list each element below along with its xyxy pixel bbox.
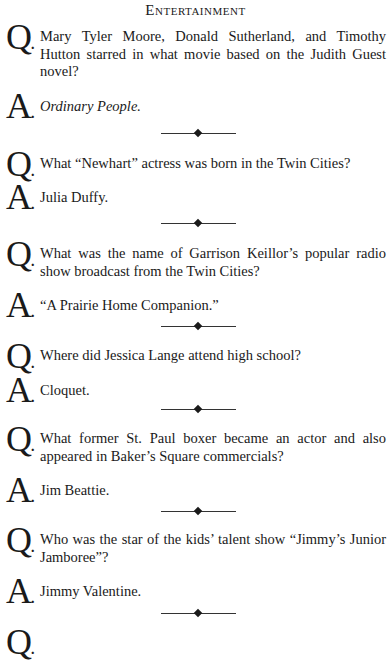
question-text: What “Newhart” actress was born in the T… <box>40 152 386 173</box>
divider-ornament <box>161 129 236 137</box>
question-row: Q. <box>6 630 386 633</box>
answer-row: A. “A Prairie Home Companion.” <box>6 293 386 315</box>
answer-marker: A. <box>6 88 35 132</box>
answer-marker: A. <box>6 573 35 617</box>
question-marker: Q. <box>6 19 35 63</box>
qa-item: Q. What former St. Paul boxer became an … <box>6 427 386 500</box>
diamond-icon <box>194 609 202 617</box>
question-marker: Q. <box>6 522 35 566</box>
question-marker: Q. <box>6 421 35 465</box>
question-text: Who was the star of the kids’ talent sho… <box>40 528 386 566</box>
divider-ornament <box>161 507 236 515</box>
question-text <box>40 630 386 633</box>
question-row: Q. Mary Tyler Moore, Donald Sutherland, … <box>6 25 386 81</box>
question-row: Q. Who was the star of the kids’ talent … <box>6 528 386 566</box>
answer-marker: A. <box>6 372 35 416</box>
divider-ornament <box>161 405 236 413</box>
diamond-icon <box>194 219 202 227</box>
question-row: Q. What former St. Paul boxer became an … <box>6 427 386 465</box>
divider-ornament <box>161 609 236 617</box>
answer-row: A. Julia Duffy. <box>6 185 386 207</box>
section-title: Entertainment <box>0 2 391 19</box>
diamond-icon <box>194 405 202 413</box>
answer-marker: A. <box>6 472 35 516</box>
diamond-icon <box>194 129 202 137</box>
answer-text: Julia Duffy. <box>40 185 386 207</box>
qa-item: Q. What was the name of Garrison Keillor… <box>6 242 386 315</box>
answer-row: A. Cloquet. <box>6 378 386 400</box>
question-text: Where did Jessica Lange attend high scho… <box>40 344 386 365</box>
qa-item: Q. What “Newhart” actress was born in th… <box>6 152 386 206</box>
question-text: Mary Tyler Moore, Donald Sutherland, and… <box>40 25 386 81</box>
question-row: Q. What was the name of Garrison Keillor… <box>6 242 386 280</box>
answer-row: A. Jim Beattie. <box>6 478 386 500</box>
question-text: What was the name of Garrison Keillor’s … <box>40 242 386 280</box>
question-marker: Q. <box>6 624 35 664</box>
answer-marker: A. <box>6 287 35 331</box>
qa-item: Q. Mary Tyler Moore, Donald Sutherland, … <box>6 25 386 115</box>
question-text: What former St. Paul boxer became an act… <box>40 427 386 465</box>
qa-item: Q. Who was the star of the kids’ talent … <box>6 528 386 601</box>
divider-ornament <box>161 322 236 330</box>
question-row: Q. Where did Jessica Lange attend high s… <box>6 344 386 365</box>
answer-text: Ordinary People. <box>40 94 386 116</box>
answer-text: Jimmy Valentine. <box>40 579 386 601</box>
diamond-icon <box>194 322 202 330</box>
diamond-icon <box>194 507 202 515</box>
qa-item: Q. <box>6 630 386 633</box>
answer-text: “A Prairie Home Companion.” <box>40 293 386 315</box>
answer-text: Cloquet. <box>40 378 386 400</box>
answer-marker: A. <box>6 179 35 223</box>
question-row: Q. What “Newhart” actress was born in th… <box>6 152 386 173</box>
question-marker: Q. <box>6 236 35 280</box>
qa-item: Q. Where did Jessica Lange attend high s… <box>6 344 386 399</box>
answer-row: A. Ordinary People. <box>6 94 386 116</box>
divider-ornament <box>161 219 236 227</box>
answer-text: Jim Beattie. <box>40 478 386 500</box>
answer-row: A. Jimmy Valentine. <box>6 579 386 601</box>
